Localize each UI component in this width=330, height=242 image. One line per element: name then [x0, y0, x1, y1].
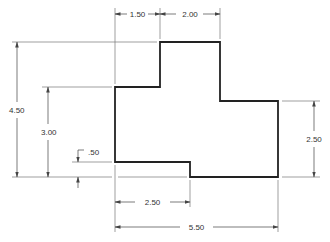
dim-label-top-right-width: 2.00	[182, 10, 198, 19]
dim-label-top-left-width: 1.50	[130, 10, 146, 19]
dim-label-overall-height: 4.50	[9, 106, 25, 115]
dim-label-bottom-left-width: 2.50	[145, 198, 161, 207]
technical-drawing: 1.50 2.00 4.50 3.00 .50 2.50 2.50 5.50	[0, 0, 330, 242]
dimension-lines	[17, 14, 314, 227]
dim-label-right-height: 2.50	[306, 135, 322, 144]
part-outline	[115, 42, 278, 177]
dim-label-bottom-step-offset: .50	[88, 148, 100, 157]
dimension-labels: 1.50 2.00 4.50 3.00 .50 2.50 2.50 5.50	[9, 10, 322, 232]
dim-label-overall-width: 5.50	[189, 223, 205, 232]
dim-label-left-step-height: 3.00	[41, 128, 57, 137]
